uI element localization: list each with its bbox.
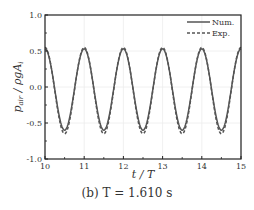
x-tick-label: 12: [118, 162, 128, 171]
y-tick-label: 1.0: [29, 11, 42, 20]
legend-num-label: Num.: [212, 18, 234, 27]
x-tick-label: 14: [197, 162, 207, 171]
y-tick-label: -0.5: [27, 119, 42, 128]
figure-caption: (b) T = 1.610 s: [0, 186, 254, 200]
x-tick-label: 15: [236, 162, 246, 171]
legend: Num. Exp.: [187, 18, 234, 38]
y-axis-label: pair / ρgAi: [11, 61, 25, 112]
y-tick-label: 0.5: [29, 47, 42, 56]
y-tick-labels: 1.00.50.0-0.5-1.0: [27, 11, 42, 164]
chart: 101112131415 1.00.50.0-0.5-1.0 pair / ρg…: [0, 0, 254, 185]
y-tick-label: -1.0: [27, 155, 42, 164]
x-tick-label: 11: [79, 162, 89, 171]
y-tick-label: 0.0: [29, 83, 42, 92]
x-axis-label: t / T: [132, 168, 156, 181]
x-tick-label: 13: [158, 162, 168, 171]
legend-exp-label: Exp.: [212, 29, 230, 38]
series-layer: [45, 47, 241, 133]
